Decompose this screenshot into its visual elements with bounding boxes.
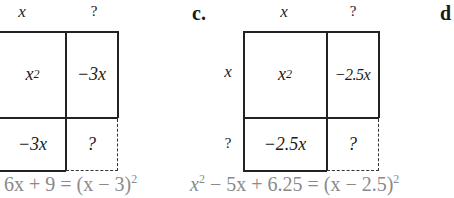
- top-label-unknown: ?: [84, 3, 104, 20]
- top-label-x: x: [274, 2, 294, 22]
- part-label-d: d: [440, 2, 451, 25]
- equation-var: x: [190, 173, 199, 195]
- dashed-right-edge: [378, 119, 379, 171]
- cell-top-right: −3x: [66, 32, 117, 117]
- top-label-unknown: ?: [343, 3, 363, 20]
- cell-term: x: [278, 64, 286, 85]
- cell-bottom-right: ?: [327, 118, 378, 170]
- cell-term: x: [26, 64, 34, 85]
- side-label-x: x: [220, 62, 236, 82]
- equation-text: − 5x + 6.25 = (x − 2.5): [205, 173, 393, 195]
- cell-top-right: −2.5x: [327, 32, 378, 117]
- cell-bottom-left: −3x: [0, 118, 65, 170]
- cell-top-left: x2: [244, 32, 326, 117]
- side-label-unknown: ?: [220, 135, 236, 152]
- exponent: 2: [131, 172, 137, 186]
- dashed-bottom-edge: [327, 170, 379, 171]
- cell-bottom-left: −2.5x: [244, 118, 326, 170]
- cell-bottom-right: ?: [66, 118, 117, 170]
- part-label-c: c.: [192, 2, 206, 25]
- equation-b: 6x + 9 = (x − 3)2: [4, 172, 137, 196]
- dashed-right-edge: [117, 119, 118, 171]
- box-right-edge: [117, 31, 119, 118]
- exponent: 2: [393, 172, 399, 186]
- cell-top-left: x2: [0, 32, 65, 117]
- dashed-bottom-edge: [66, 170, 118, 171]
- top-label-x: x: [12, 2, 32, 22]
- equation-text: 6x + 9 = (x − 3): [4, 173, 131, 195]
- equation-c: x2 − 5x + 6.25 = (x − 2.5)2: [190, 172, 399, 196]
- box-right-edge: [378, 31, 380, 118]
- exponent: 2: [34, 67, 40, 82]
- exponent: 2: [286, 67, 292, 82]
